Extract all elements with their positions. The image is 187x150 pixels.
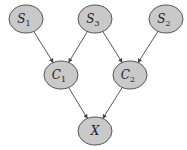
node-s2: S2 [149,5,183,33]
edge-c1-to-x [69,88,88,119]
edge-c2-to-x [103,87,122,118]
edge-s1-to-c1 [34,31,53,62]
node-s3: S3 [78,5,112,33]
node-c2: C2 [113,61,147,89]
diagram-svg: S1S3S2C1C2X [0,0,187,150]
edge-s3-to-c1 [69,32,88,63]
edge-s2-to-c2 [138,31,158,62]
edge-s3-to-c2 [103,31,122,62]
dag-diagram: S1S3S2C1C2X [0,0,187,150]
node-x: X [78,117,112,145]
node-label: X [90,124,100,138]
node-s1: S1 [9,5,43,33]
nodes: S1S3S2C1C2X [9,5,183,145]
node-c1: C1 [44,61,78,89]
